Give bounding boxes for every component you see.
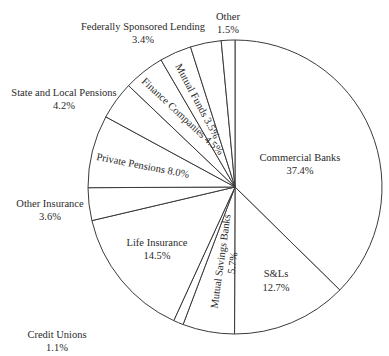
label-other-insurance: Other Insurance 3.6% (16, 197, 83, 223)
state-local-value: 4.2% (11, 99, 116, 112)
other-insurance-value: 3.6% (16, 210, 83, 223)
value-life-insurance: 14.5% (143, 250, 170, 261)
federal-value: 3.4% (81, 33, 205, 46)
other-insurance-name: Other Insurance (16, 197, 83, 210)
pie-chart: Commercial Banks 37.4% S&Ls 12.7% Mutual… (0, 0, 389, 356)
state-local-name: State and Local Pensions (11, 86, 116, 99)
federal-name: Federally Sponsored Lending (81, 20, 205, 33)
label-commercial-banks: Commercial Banks (260, 152, 341, 163)
label-life-insurance: Life Insurance (127, 237, 188, 248)
value-commercial-banks: 37.4% (286, 165, 313, 176)
pie-slices (88, 40, 382, 334)
value-sls: 12.7% (262, 282, 289, 293)
label-state-local-pensions: State and Local Pensions 4.2% (11, 86, 116, 112)
other-value: 1.5% (216, 23, 240, 36)
other-name: Other (216, 10, 240, 23)
credit-unions-value: 1.1% (27, 341, 86, 354)
credit-unions-name: Credit Unions (27, 328, 86, 341)
label-credit-unions: Credit Unions 1.1% (27, 328, 86, 354)
label-other: Other 1.5% (216, 10, 240, 36)
label-federally-sponsored-lending: Federally Sponsored Lending 3.4% (81, 20, 205, 46)
label-sls: S&Ls (264, 268, 289, 279)
